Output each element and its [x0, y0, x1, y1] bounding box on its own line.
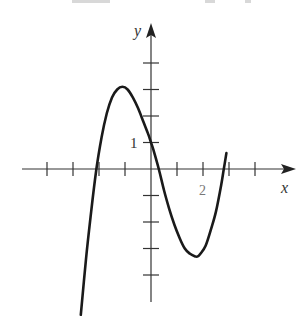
function-graph: y x 1 2 — [0, 0, 308, 318]
function-curve — [81, 87, 227, 315]
y-tick-label-1: 1 — [130, 135, 138, 151]
x-tick-label-2: 2 — [199, 183, 206, 198]
x-axis-label: x — [280, 179, 288, 196]
y-axis-label: y — [132, 22, 142, 40]
